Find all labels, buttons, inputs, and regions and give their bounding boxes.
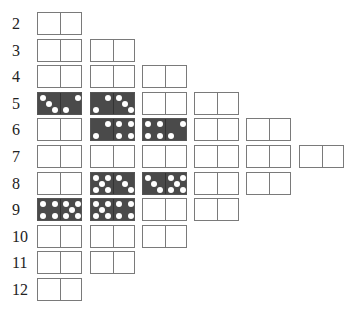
- domino-right-half: [60, 40, 82, 61]
- domino-right-half: [269, 146, 291, 167]
- domino-left-half: [38, 226, 60, 247]
- pip-icon: [105, 95, 111, 101]
- pip-icon: [93, 187, 99, 193]
- pip-icon: [128, 201, 134, 207]
- pip-icon: [122, 181, 128, 187]
- domino-empty: [299, 145, 344, 168]
- domino-left-half: [38, 146, 60, 167]
- row-label: 8: [12, 172, 34, 196]
- domino-left-half: [91, 252, 113, 273]
- domino-filled: [142, 118, 187, 141]
- pip-icon: [128, 187, 134, 193]
- pip-icon: [93, 201, 99, 207]
- domino-right-half: [165, 119, 187, 140]
- domino-left-half: [38, 199, 60, 220]
- row-label: 5: [12, 92, 34, 116]
- domino-right-half: [165, 66, 187, 87]
- domino-filled: [142, 172, 187, 195]
- domino-right-half: [113, 199, 135, 220]
- domino-right-half: [113, 119, 135, 140]
- domino-right-half: [113, 146, 135, 167]
- domino-empty: [37, 39, 82, 62]
- domino-left-half: [195, 119, 217, 140]
- pip-icon: [116, 121, 122, 127]
- domino-left-half: [91, 93, 113, 114]
- pip-icon: [40, 213, 46, 219]
- row-label: 12: [12, 278, 34, 302]
- pip-icon: [63, 213, 69, 219]
- pip-icon: [157, 121, 163, 127]
- row-label: 7: [12, 145, 34, 169]
- pip-icon: [157, 133, 163, 139]
- domino-empty: [90, 39, 135, 62]
- domino-left-half: [38, 252, 60, 273]
- pip-icon: [128, 133, 134, 139]
- domino-right-half: [60, 199, 82, 220]
- domino-filled: [90, 92, 135, 115]
- pip-icon: [75, 95, 81, 101]
- domino-empty: [194, 145, 239, 168]
- pip-icon: [69, 207, 75, 213]
- domino-right-half: [113, 252, 135, 273]
- pip-icon: [105, 121, 111, 127]
- domino-empty: [194, 92, 239, 115]
- pip-icon: [105, 213, 111, 219]
- domino-empty: [142, 198, 187, 221]
- domino-right-half: [60, 279, 82, 300]
- domino-empty: [37, 65, 82, 88]
- domino-left-half: [38, 279, 60, 300]
- domino-right-half: [60, 93, 82, 114]
- pip-icon: [52, 201, 58, 207]
- domino-left-half: [91, 119, 113, 140]
- pip-icon: [180, 121, 186, 127]
- pip-icon: [105, 187, 111, 193]
- domino-empty: [194, 198, 239, 221]
- domino-left-half: [195, 93, 217, 114]
- domino-left-half: [143, 119, 165, 140]
- domino-empty: [142, 225, 187, 248]
- pip-icon: [63, 107, 69, 113]
- domino-empty: [142, 145, 187, 168]
- pip-icon: [40, 201, 46, 207]
- domino-left-half: [91, 173, 113, 194]
- domino-right-half: [113, 93, 135, 114]
- pip-icon: [52, 107, 58, 113]
- pip-icon: [128, 213, 134, 219]
- domino-right-half: [269, 119, 291, 140]
- pip-icon: [168, 133, 174, 139]
- domino-empty: [246, 172, 291, 195]
- domino-left-half: [38, 173, 60, 194]
- domino-left-half: [143, 66, 165, 87]
- domino-empty: [37, 278, 82, 301]
- domino-left-half: [195, 173, 217, 194]
- row-label: 4: [12, 65, 34, 89]
- domino-empty: [37, 145, 82, 168]
- domino-left-half: [195, 199, 217, 220]
- domino-left-half: [247, 119, 269, 140]
- pip-icon: [128, 121, 134, 127]
- pip-icon: [157, 187, 163, 193]
- domino-right-half: [113, 226, 135, 247]
- pip-icon: [63, 201, 69, 207]
- pip-icon: [93, 133, 99, 139]
- pip-icon: [75, 201, 81, 207]
- pip-icon: [151, 181, 157, 187]
- domino-right-half: [60, 119, 82, 140]
- domino-left-half: [38, 13, 60, 34]
- pip-icon: [105, 175, 111, 181]
- domino-empty: [90, 65, 135, 88]
- domino-left-half: [91, 226, 113, 247]
- domino-right-half: [217, 199, 239, 220]
- row-label: 3: [12, 39, 34, 63]
- pip-icon: [145, 175, 151, 181]
- domino-empty: [37, 225, 82, 248]
- domino-filled: [90, 118, 135, 141]
- domino-right-half: [269, 173, 291, 194]
- pip-icon: [122, 101, 128, 107]
- domino-right-half: [217, 119, 239, 140]
- domino-right-half: [60, 226, 82, 247]
- domino-left-half: [91, 199, 113, 220]
- domino-left-half: [91, 66, 113, 87]
- domino-empty: [90, 145, 135, 168]
- domino-empty: [142, 92, 187, 115]
